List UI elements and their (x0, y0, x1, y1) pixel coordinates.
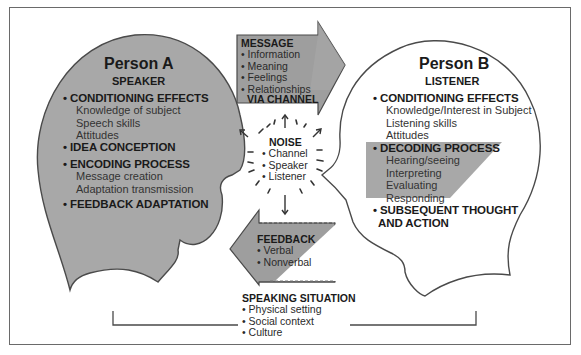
speaking-situation-heading: SPEAKING SITUATION (242, 293, 356, 304)
noise-list: Channel Speaker Listener (262, 148, 308, 183)
list-item: Information (241, 49, 311, 61)
person-a-title: Person A (104, 56, 174, 72)
list-item: Message creation (76, 170, 193, 183)
list-item: Listener (262, 171, 308, 183)
list-item: Listening skills (386, 117, 532, 130)
list-item: Culture (242, 327, 322, 339)
message-list: Information Meaning Feelings Relationshi… (241, 49, 311, 95)
person-b-conditioning-heading: • CONDITIONING EFFECTS (373, 93, 519, 105)
feedback-heading: FEEDBACK (257, 234, 315, 245)
person-a-role: SPEAKER (112, 76, 165, 87)
list-item: Evaluating (386, 179, 460, 192)
person-b-decoding-heading: • DECODING PROCESS (373, 143, 500, 155)
bottom-bracket-right (350, 311, 476, 325)
bottom-bracket-left (113, 311, 238, 325)
message-heading: MESSAGE (241, 38, 294, 49)
person-b-role: LISTENER (425, 76, 479, 87)
list-item: Attitudes (386, 129, 532, 142)
list-item: Knowledge/Interest in Subject (386, 104, 532, 117)
person-a-idea-heading: • IDEA CONCEPTION (63, 142, 175, 154)
list-item: Responding (386, 192, 460, 205)
noise-heading: NOISE (269, 137, 302, 148)
list-item: Physical setting (242, 304, 322, 316)
person-a-conditioning-heading: • CONDITIONING EFFECTS (63, 93, 209, 105)
speaking-situation-list: Physical setting Social context Culture (242, 304, 322, 339)
list-item: Verbal (257, 245, 311, 257)
list-item: Adaptation transmission (76, 183, 193, 196)
list-item: Channel (262, 148, 308, 160)
person-b-subsequent-heading: • SUBSEQUENT THOUGHT (373, 205, 518, 217)
person-b-subsequent-heading-2: AND ACTION (378, 218, 449, 230)
person-b-title: Person B (419, 56, 489, 72)
person-b-decoding-list: Hearing/seeing Interpreting Evaluating R… (386, 154, 460, 204)
list-item: Interpreting (386, 167, 460, 180)
list-item: Attitudes (76, 129, 181, 142)
list-item: Feelings (241, 72, 311, 84)
list-item: Speech skills (76, 117, 181, 130)
person-a-conditioning-list: Knowledge of subject Speech skills Attit… (76, 104, 181, 142)
list-item: Hearing/seeing (386, 154, 460, 167)
person-a-feedback-heading: • FEEDBACK ADAPTATION (63, 199, 208, 211)
feedback-list: Verbal Nonverbal (257, 245, 311, 268)
person-a-encoding-list: Message creation Adaptation transmission (76, 170, 193, 195)
list-item: Nonverbal (257, 257, 311, 269)
person-b-conditioning-list: Knowledge/Interest in Subject Listening … (386, 104, 532, 142)
via-channel-label: VIA CHANNEL (247, 94, 318, 105)
person-a-encoding-heading: • ENCODING PROCESS (63, 159, 190, 171)
list-item: Knowledge of subject (76, 104, 181, 117)
